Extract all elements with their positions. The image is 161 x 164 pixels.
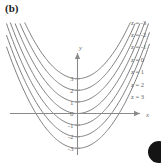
y-tick-label: 1 <box>70 99 74 107</box>
level-label: z = -3 <box>131 19 146 26</box>
y-tick-label: 3 <box>70 75 74 83</box>
level-label: z = -2 <box>131 31 146 38</box>
y-axis-arrowhead <box>75 53 80 59</box>
level-label: z = -1 <box>131 43 146 50</box>
y-tick-label: -3 <box>68 145 74 153</box>
y-tick-label: -1 <box>68 122 74 130</box>
axes-group <box>10 53 140 155</box>
x-axis-arrowhead <box>134 111 140 116</box>
contour-plot: 3210-1-2-3 z = -3z = -2z = -1z = 0z = 1z… <box>0 0 161 164</box>
level-label-group: z = -3z = -2z = -1z = 0z = 1z = 2z = 3 <box>131 19 146 100</box>
figure-panel: (b) 3210-1-2-3 z = -3z = -2z = -1z = 0z … <box>0 0 161 164</box>
y-axis-label: y <box>78 44 83 52</box>
y-tick-label: 2 <box>70 87 74 95</box>
level-label: z = 1 <box>131 68 144 75</box>
level-label: z = 3 <box>131 93 144 100</box>
level-label: z = 2 <box>131 81 144 88</box>
level-label: z = 0 <box>131 56 144 63</box>
y-tick-label: -2 <box>68 133 74 141</box>
y-tick-labels-group: 3210-1-2-3 <box>68 75 74 153</box>
x-axis-label: x <box>145 111 150 119</box>
y-tick-label: 0 <box>70 110 74 118</box>
